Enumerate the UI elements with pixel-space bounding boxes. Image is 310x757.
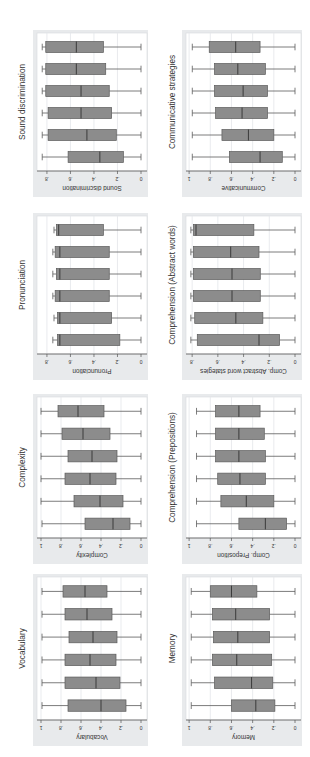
tick-label: .2 [119, 543, 123, 549]
tick-label: .2 [115, 359, 119, 365]
tick-label: .2 [272, 543, 276, 549]
axis-label: Pronunciation [72, 368, 112, 375]
axis-label: Vocabulary [75, 733, 107, 741]
iqr-box [55, 247, 109, 258]
panel-comprehension-prepositions: 0.2.4.6.81Comp. PrepositionComprehension… [168, 394, 302, 564]
tick-label: 1 [39, 543, 42, 549]
tick-label: .8 [45, 176, 49, 182]
axis-label: Memory [231, 733, 255, 741]
tick-label: .8 [208, 543, 212, 549]
plot-area [37, 397, 147, 538]
iqr-box [48, 108, 111, 119]
iqr-box [212, 609, 269, 620]
axis-label: Communicative [221, 185, 265, 192]
axis-label: Comp. Preposition [217, 551, 270, 559]
iqr-box [62, 428, 110, 439]
iqr-box [58, 406, 104, 417]
tick-label: 0 [139, 725, 142, 731]
iqr-box [221, 496, 274, 507]
panel-title: Pronunciation [18, 260, 27, 311]
tick-label: .8 [59, 725, 63, 731]
plot-area [186, 577, 301, 720]
iqr-box [210, 586, 257, 597]
tick-label: 1 [39, 725, 42, 731]
panel-communicative-strategies: 0.2.4.6.81CommunicativeCommunicative str… [168, 30, 302, 197]
iqr-box [193, 225, 253, 236]
panel-pronunciation: 0.2.4.6.8PronunciationPronunciation [18, 213, 148, 380]
axis-label: Complexity [75, 551, 107, 559]
panel-title: Complexity [18, 446, 27, 487]
tick-label: .6 [68, 359, 72, 365]
tick-label: .8 [45, 359, 49, 365]
tick-label: 1 [188, 176, 191, 182]
iqr-box [85, 518, 130, 529]
iqr-box [65, 609, 112, 620]
iqr-box [56, 269, 109, 280]
plot-area [37, 33, 147, 171]
iqr-box [68, 700, 126, 711]
tick-label: .4 [250, 543, 254, 549]
iqr-box [216, 428, 265, 439]
tick-label: .4 [250, 176, 254, 182]
tick-label: 0 [293, 176, 296, 182]
tick-label: .2 [115, 176, 119, 182]
box-group-1 [191, 335, 295, 346]
panel-title: Comprehension (Abstract words) [168, 225, 177, 345]
panel-title: Memory [168, 633, 177, 663]
iqr-box [48, 130, 116, 141]
iqr-box [239, 518, 287, 529]
iqr-box [213, 631, 269, 642]
tick-label: .2 [119, 725, 123, 731]
panel-vocabulary: 0.2.4.6.81VocabularyVocabulary [18, 574, 148, 746]
iqr-box [215, 677, 273, 688]
iqr-box [229, 152, 282, 163]
iqr-box [216, 406, 260, 417]
iqr-box [193, 269, 260, 280]
tick-label: .8 [190, 359, 194, 365]
plot-area [37, 577, 147, 720]
iqr-box [231, 700, 274, 711]
tick-label: 0 [139, 543, 142, 549]
tick-label: .8 [208, 176, 212, 182]
iqr-box [222, 130, 274, 141]
panel-memory: 0.2.4.6.81MemoryMemory [168, 574, 302, 746]
tick-label: .6 [68, 176, 72, 182]
tick-label: .6 [229, 176, 233, 182]
tick-label: .6 [79, 543, 83, 549]
axis-label: Comp. Abstract word stategies [200, 367, 287, 375]
tick-label: .4 [99, 725, 103, 731]
panel-title: Communicative strategies [168, 55, 177, 149]
tick-label: .6 [79, 725, 83, 731]
iqr-box [193, 291, 260, 302]
iqr-box [215, 64, 266, 75]
iqr-box [216, 108, 268, 119]
tick-label: .4 [241, 359, 245, 365]
tick-label: .4 [99, 543, 103, 549]
tick-label: 0 [293, 725, 296, 731]
tick-label: 1 [188, 725, 191, 731]
iqr-box [74, 496, 123, 507]
iqr-box [212, 654, 271, 665]
tick-label: .2 [272, 725, 276, 731]
iqr-box [46, 42, 104, 53]
tick-label: .2 [272, 176, 276, 182]
iqr-box [215, 86, 268, 97]
iqr-box [218, 473, 266, 484]
iqr-box [58, 335, 120, 346]
tick-label: 1 [188, 543, 191, 549]
plot-area [37, 216, 147, 354]
iqr-box [209, 42, 260, 53]
tick-label: .8 [208, 725, 212, 731]
tick-label: 0 [293, 543, 296, 549]
panel-sound-discrimination: 0.2.4.6.8Sound discriminationSound discr… [18, 30, 148, 197]
plot-area [186, 397, 301, 538]
boxplot-figure: 0.2.4.6.8Sound discriminationSound discr… [0, 0, 310, 757]
iqr-box [46, 64, 106, 75]
iqr-box [193, 247, 259, 258]
tick-label: .4 [250, 725, 254, 731]
tick-label: .4 [92, 176, 96, 182]
iqr-box [68, 152, 123, 163]
iqr-box [55, 291, 109, 302]
panel-title: Vocabulary [18, 627, 27, 668]
tick-label: .6 [229, 725, 233, 731]
